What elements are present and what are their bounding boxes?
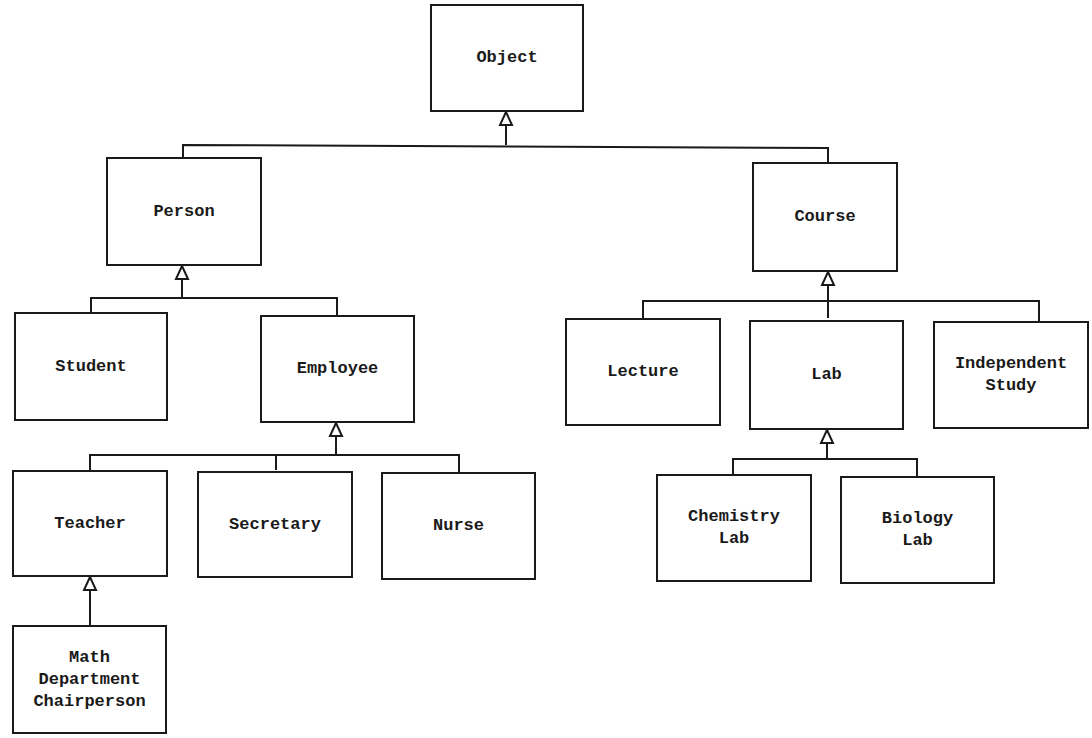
- class-biology-lab: Biology Lab: [840, 476, 995, 584]
- class-math-department-chairperson: Math Department Chairperson: [12, 625, 167, 734]
- class-nurse: Nurse: [381, 472, 536, 580]
- class-secretary: Secretary: [197, 471, 353, 578]
- class-lecture: Lecture: [565, 318, 721, 426]
- class-teacher: Teacher: [12, 470, 168, 577]
- class-object: Object: [430, 4, 584, 112]
- class-person: Person: [106, 157, 262, 266]
- class-course: Course: [752, 162, 898, 272]
- class-employee: Employee: [260, 315, 415, 423]
- class-student: Student: [14, 312, 168, 421]
- class-lab: Lab: [749, 320, 904, 430]
- class-chemistry-lab: Chemistry Lab: [656, 474, 812, 582]
- class-independent-study: Independent Study: [933, 321, 1089, 429]
